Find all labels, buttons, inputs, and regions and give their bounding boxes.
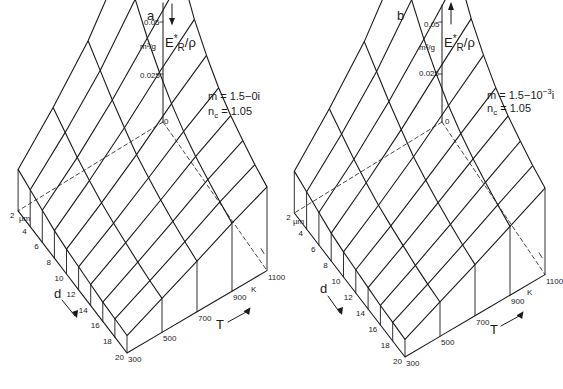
z-unit: m²/g [419,44,435,52]
d-axis-label: d [320,281,327,296]
t-axis-label: T [216,317,224,332]
d-tick-label: 12 [344,294,353,302]
d-tick-label: 20 [115,354,124,362]
z-tick-top: 0.05 [144,19,160,27]
d-unit: µm [293,217,304,226]
panel-letter: b [397,8,404,23]
t-tick-label: 1100 [546,278,563,286]
param-nc: nc = 1.05 [208,104,252,123]
z-tick-top: 0.05 [424,21,440,29]
d-tick-label: 10 [332,278,341,286]
z-tick-mid: 0.025 [140,72,160,80]
d-tick-label: 4 [22,228,26,236]
z-zero: 0 [164,118,168,126]
surface-plot-a [0,0,278,389]
t-tick-label: 500 [441,339,454,347]
d-tick-label: 16 [91,322,100,330]
d-tick-label: 8 [323,262,327,270]
param-m: m = 1.5−0i [208,89,260,104]
d-tick-label: 2 [10,212,14,220]
d-tick-label: 4 [299,230,303,238]
d-axis-label: d [54,286,61,301]
d-tick-label: 6 [34,243,38,251]
d-tick-label: 14 [79,307,88,315]
d-tick-label: 6 [311,246,315,254]
t-unit: K [251,285,256,294]
d-tick-label: 10 [55,275,64,283]
t-axis-label: T [490,322,498,337]
d-tick-label: 14 [356,310,365,318]
z-unit: m²/g [140,43,156,51]
t-tick-label: 300 [406,360,419,368]
t-tick-label: 700 [476,319,489,327]
d-tick-label: 8 [46,259,50,267]
chart-panel-a: a 0.05 m²/g 0.025 0 E*R/ρ m = 1.5−0i nc … [0,0,278,389]
d-tick-label: 12 [67,291,76,299]
d-tick-label: 2 [286,214,290,222]
z-tick-mid: 0.025 [419,70,439,78]
chart-panel-b: b 0.05 m²/g 0.025 0 E*R/ρ m = 1.5−10−3i … [277,0,555,389]
t-tick-label: 700 [198,315,211,323]
t-tick-label: 300 [128,356,141,364]
t-tick-label: 900 [511,298,524,306]
t-tick-label: 500 [163,335,176,343]
t-unit: K [527,288,532,297]
z-axis-label: E*R/ρ [165,33,196,53]
surface-plot-b [277,0,555,389]
z-zero: 0 [445,118,449,126]
d-tick-label: 18 [381,342,390,350]
z-axis-label: E*R/ρ [444,33,475,53]
t-tick-label: 900 [233,294,246,302]
d-tick-label: 16 [368,326,377,334]
d-tick-label: 18 [103,338,112,346]
param-nc: nc = 1.05 [487,101,531,120]
d-tick-label: 20 [393,358,402,366]
d-unit: µm [19,214,30,223]
param-m: m = 1.5−10−3i [487,84,554,103]
